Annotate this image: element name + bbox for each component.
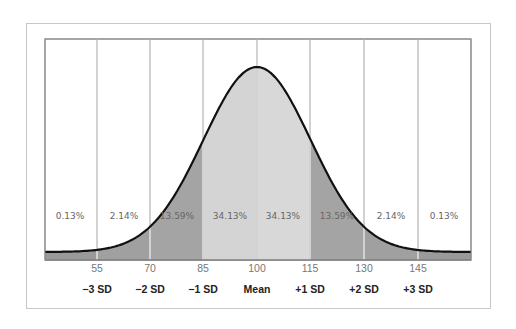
- pct-label: 34.13%: [266, 211, 301, 221]
- tick-label: 100: [248, 262, 266, 274]
- pct-label: 2.14%: [377, 211, 406, 221]
- sd-label: Mean: [244, 283, 271, 295]
- pct-label: 34.13%: [213, 211, 248, 221]
- pct-label: 0.13%: [56, 211, 85, 221]
- sd-label: −2 SD: [135, 283, 165, 295]
- sd-label: −1 SD: [188, 283, 218, 295]
- tick-label: 85: [197, 262, 209, 274]
- pct-label: 2.14%: [110, 211, 139, 221]
- tick-label: 55: [91, 262, 103, 274]
- sd-label: +2 SD: [349, 283, 379, 295]
- pct-label: 13.59%: [160, 211, 195, 221]
- sd-label: +1 SD: [295, 283, 325, 295]
- sd-label: −3 SD: [82, 283, 112, 295]
- sd-labels: −3 SD −2 SD −1 SD Mean +1 SD +2 SD +3 SD: [82, 283, 433, 295]
- tick-label: 115: [302, 262, 319, 274]
- sd-label: +3 SD: [403, 283, 433, 295]
- x-tick-labels: 55 70 85 100 115 130 145: [91, 262, 427, 274]
- pct-label: 13.59%: [320, 211, 355, 221]
- pct-label: 0.13%: [430, 211, 459, 221]
- tick-label: 130: [355, 262, 373, 274]
- tick-label: 145: [409, 262, 427, 274]
- bell-curve-chart: 0.13% 2.14% 13.59% 34.13% 34.13% 13.59% …: [0, 0, 516, 329]
- tick-label: 70: [144, 262, 156, 274]
